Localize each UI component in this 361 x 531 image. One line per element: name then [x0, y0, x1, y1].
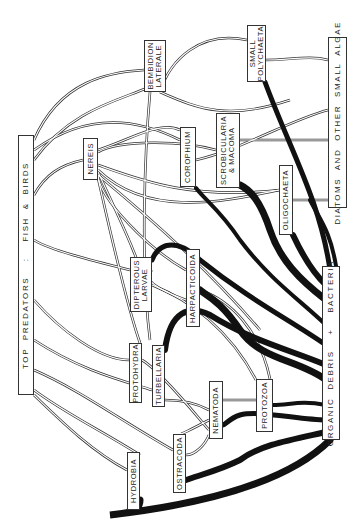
node-hydrobia: HYDROBIA [127, 452, 140, 510]
node-scrobicularia-macoma: SCROBICULARIA & MACOMA [216, 113, 240, 188]
flow-path [34, 160, 83, 195]
node-label: NEREIS [87, 143, 95, 175]
flow-path [110, 440, 330, 515]
node-turbellaria: TURBELLARIA [152, 345, 165, 407]
node-label: SCROBICULARIA & MACOMA [220, 116, 236, 185]
flow-path [273, 403, 326, 405]
flow-path [34, 70, 144, 140]
flow-path [34, 300, 129, 360]
node-nereis: NEREIS [83, 138, 98, 180]
flow-path [98, 175, 186, 270]
node-harpacticoida: HARPACTICOIDA [186, 249, 200, 327]
node-top-predators: TOP PREDATORS : FISH & BIRDS [18, 135, 34, 395]
node-nematoda: NEMATODA [209, 381, 223, 439]
node-label: COROPHIUM [184, 131, 192, 183]
flow-path [34, 395, 127, 470]
node-label: PROTOHYDRA [132, 344, 140, 403]
flow-path [98, 175, 186, 270]
node-label: TOP PREDATORS : FISH & BIRDS [22, 162, 30, 369]
node-label: TURBELLARIA [155, 347, 163, 405]
node-label: NEMATODA [212, 387, 220, 434]
node-dipterous-larvae: DIPTEROUS LARVAE [130, 257, 152, 312]
node-corophium: COROPHIUM [180, 127, 196, 187]
node-protozoa: PROTOZOA [256, 379, 273, 432]
flow-path [34, 300, 129, 360]
node-oligochaeta: OLIGOCHAETA [279, 165, 293, 235]
node-label: OSTRACODA [176, 437, 184, 490]
flow-path [160, 38, 247, 92]
node-label: DIPTEROUS LARVAE [133, 260, 149, 309]
flow-path [34, 395, 127, 470]
node-small-polychaeta: SMALL POLYCHAETA [247, 25, 266, 82]
node-label: BEMBIDION LATERALE [147, 42, 163, 90]
flow-path [223, 414, 326, 425]
node-label: HYDROBIA [130, 459, 138, 503]
node-label: OLIGOCHAETA [282, 170, 290, 230]
node-bembidion-laterale: BEMBIDION LATERALE [144, 40, 166, 92]
node-label: ORGANIC DEBRIS + BACTERIA [327, 260, 335, 446]
node-label: HARPACTICOIDA [189, 254, 197, 323]
node-protohydra: PROTOHYDRA [129, 343, 142, 403]
node-label: PROTOZOA [261, 382, 269, 429]
flow-path [180, 420, 209, 434]
node-label: SMALL POLYCHAETA [249, 26, 265, 81]
flow-path [186, 435, 209, 455]
node-label: DIATOMS AND OTHER SMALL ALGAE [334, 21, 342, 225]
node-diatoms-algae: DIATOMS AND OTHER SMALL ALGAE [328, 37, 347, 208]
node-ostracoda: OSTRACODA [173, 434, 186, 493]
flow-path [186, 435, 209, 455]
food-web-diagram: TOP PREDATORS : FISH & BIRDS BEMBIDION L… [0, 0, 361, 531]
node-organic-debris-bacteria: ORGANIC DEBRIS + BACTERIA [322, 266, 340, 440]
flow-path [148, 270, 186, 300]
flow-path [34, 160, 83, 195]
